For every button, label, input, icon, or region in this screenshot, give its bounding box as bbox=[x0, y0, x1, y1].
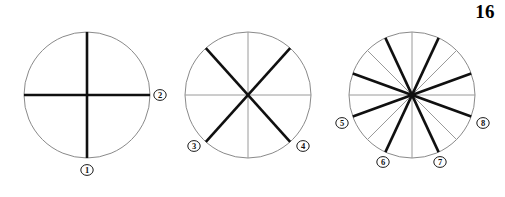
marker-label-5: 5 bbox=[340, 118, 344, 128]
circle-two bbox=[185, 32, 311, 158]
circles-layer bbox=[24, 32, 475, 158]
circle-three bbox=[349, 32, 475, 158]
endpoint-marker-1: 1 bbox=[81, 165, 93, 176]
endpoint-marker-5: 5 bbox=[336, 118, 348, 129]
endpoint-marker-2: 2 bbox=[154, 90, 166, 101]
endpoint-marker-3: 3 bbox=[188, 141, 200, 152]
marker-label-2: 2 bbox=[158, 90, 162, 100]
circle-divisions-diagram: 12345678 bbox=[0, 0, 505, 197]
circle-one bbox=[24, 32, 150, 158]
marker-label-6: 6 bbox=[381, 157, 385, 167]
endpoint-marker-8: 8 bbox=[477, 118, 489, 129]
endpoint-marker-4: 4 bbox=[297, 141, 309, 152]
figure-number-label: 16 bbox=[475, 2, 495, 21]
marker-label-8: 8 bbox=[481, 118, 485, 128]
endpoint-marker-7: 7 bbox=[434, 157, 446, 168]
figure-container: 12345678 16 bbox=[0, 0, 505, 197]
marker-label-1: 1 bbox=[85, 165, 89, 175]
marker-label-3: 3 bbox=[192, 141, 196, 151]
endpoint-marker-6: 6 bbox=[377, 157, 389, 168]
